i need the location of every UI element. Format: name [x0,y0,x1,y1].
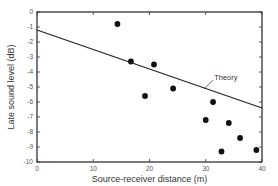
y-tick-label: -1 [27,23,33,30]
x-axis-label: Source-receiver distance (m) [92,174,208,184]
y-tick-label: -3 [27,53,33,60]
y-tick-label: -5 [27,83,33,90]
x-tick-label: 30 [202,165,210,172]
annotation-theory-label: Theory [214,73,238,82]
data-point [115,21,121,27]
y-tick-label: -6 [27,98,33,105]
data-point [203,117,209,123]
data-point [210,99,216,105]
data-point [253,147,259,153]
y-tick-label: -7 [27,113,33,120]
y-axis-label: Late sound level (dB) [6,44,16,129]
x-tick-label: 10 [90,165,98,172]
data-point [151,62,157,68]
data-point [226,120,232,126]
x-tick-label: 0 [35,165,39,172]
y-tick-label: -2 [27,38,33,45]
y-tick-label: -10 [24,158,34,165]
x-tick-label: 40 [258,165,266,172]
plot-frame [37,12,262,162]
data-point [170,86,176,92]
data-point [237,135,243,141]
scatter-chart: 0102030400-1-2-3-4-5-6-7-8-9-10 Theory S… [0,0,278,186]
y-tick-label: -4 [27,68,33,75]
annotation-leader [204,80,213,89]
y-tick-label: 0 [29,8,33,15]
data-point [142,93,148,99]
x-tick-label: 20 [146,165,154,172]
y-tick-label: -9 [27,143,33,150]
series-layer: Theory [37,21,262,154]
axes: 0102030400-1-2-3-4-5-6-7-8-9-10 [24,8,266,172]
y-tick-label: -8 [27,128,33,135]
theory-line [37,30,262,108]
data-point [219,149,225,155]
